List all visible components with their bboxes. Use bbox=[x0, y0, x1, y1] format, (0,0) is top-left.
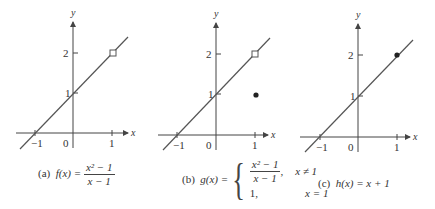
caption-prefix: (c) bbox=[318, 177, 330, 189]
x-axis-label: x bbox=[270, 129, 276, 140]
x-tick-1: 1 bbox=[252, 139, 258, 151]
x-axis-label: x bbox=[130, 127, 136, 138]
x-axis-label: x bbox=[412, 131, 418, 142]
fraction-numerator: x² − 1 bbox=[84, 161, 115, 175]
y-axis-label: y bbox=[213, 8, 219, 19]
case-2-value: 1, bbox=[250, 187, 258, 199]
x-tick-neg1: −1 bbox=[173, 139, 185, 151]
x-tick-0: 0 bbox=[206, 139, 212, 151]
caption-b: (b) g(x) = { x² − 1 x − 1 , x ≠ 1 1, x =… bbox=[182, 158, 328, 202]
y-axis-label: y bbox=[70, 7, 76, 18]
open-circle-hole bbox=[110, 50, 116, 56]
caption-lhs: g(x) = bbox=[200, 173, 228, 185]
filled-dot-point bbox=[253, 92, 258, 97]
piecewise-cases: x² − 1 x − 1 , x ≠ 1 1, x = 1 bbox=[250, 159, 329, 202]
x-tick-0: 0 bbox=[348, 141, 354, 153]
open-circle-hole bbox=[252, 51, 258, 57]
piecewise-brace: { bbox=[232, 158, 245, 202]
y-tick-2: 2 bbox=[206, 48, 212, 60]
fraction-denominator: x − 1 bbox=[250, 172, 281, 185]
graph-b: x y −1 0 1 2 1 bbox=[158, 8, 276, 151]
case-2: 1, x = 1 bbox=[250, 184, 329, 202]
x-tick-1: 1 bbox=[109, 137, 115, 149]
caption-lhs: f(x) = bbox=[56, 167, 81, 179]
caption-a: (a) f(x) = x² − 1 x − 1 bbox=[38, 161, 115, 187]
fraction: x² − 1 x − 1 bbox=[84, 161, 115, 187]
x-tick-neg1: −1 bbox=[31, 137, 43, 149]
caption-c: (c) h(x) = x + 1 bbox=[318, 177, 390, 189]
y-axis-label: y bbox=[355, 9, 361, 20]
caption-prefix: (a) bbox=[38, 167, 50, 179]
fraction-numerator: x² − 1 bbox=[250, 158, 281, 172]
caption-lhs: h(x) = x + 1 bbox=[336, 177, 390, 189]
fraction-denominator: x − 1 bbox=[84, 175, 115, 188]
graph-c: x y −1 0 1 2 1 bbox=[300, 9, 418, 153]
case-1-condition: x ≠ 1 bbox=[295, 165, 317, 177]
x-tick-0: 0 bbox=[63, 137, 69, 149]
filled-dot-point bbox=[394, 52, 399, 57]
case-1: x² − 1 x − 1 , x ≠ 1 bbox=[250, 159, 329, 184]
fraction: x² − 1 x − 1 bbox=[250, 158, 281, 184]
x-tick-1: 1 bbox=[394, 141, 400, 153]
caption-prefix: (b) bbox=[182, 173, 195, 185]
x-tick-neg1: −1 bbox=[316, 141, 328, 153]
graph-a: x y −1 0 1 2 1 bbox=[16, 7, 136, 149]
y-tick-2: 2 bbox=[63, 47, 69, 59]
y-tick-2: 2 bbox=[348, 49, 354, 61]
